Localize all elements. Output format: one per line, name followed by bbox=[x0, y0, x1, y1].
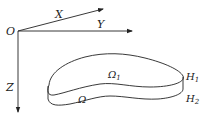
top-surface-label: Ω1 bbox=[107, 69, 121, 82]
origin-label: O bbox=[6, 25, 15, 38]
upper-height-label: H1 bbox=[185, 71, 199, 84]
coordinate-diagram: O X Y Z Ω1 Ω H1 H2 bbox=[0, 0, 206, 122]
side-surface-label: Ω bbox=[77, 94, 86, 105]
lower-height-label: H2 bbox=[185, 93, 200, 106]
x-axis-label: X bbox=[54, 8, 64, 21]
y-axis-label: Y bbox=[97, 18, 106, 31]
z-axis-label: Z bbox=[5, 81, 14, 94]
